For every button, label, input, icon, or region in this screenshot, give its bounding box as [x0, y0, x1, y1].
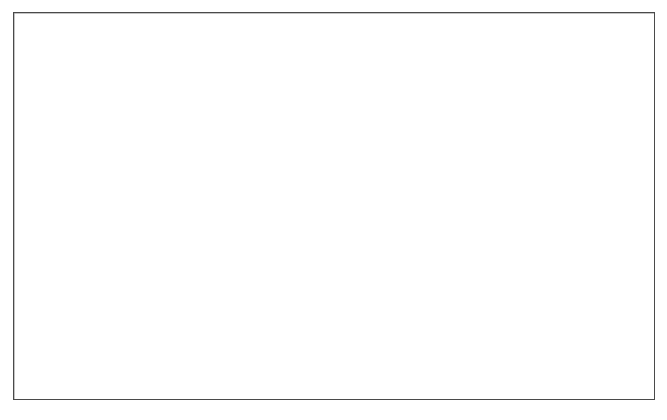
map-figure [0, 0, 667, 420]
map-frame-border [13, 12, 655, 400]
